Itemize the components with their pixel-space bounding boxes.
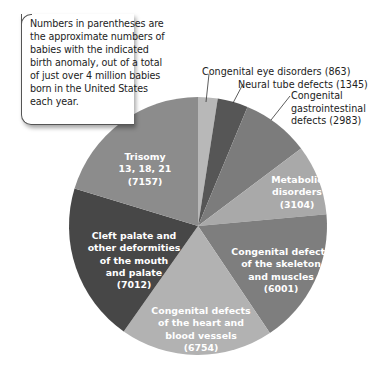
label-skeleton: Congenital defects of the skeleton and m…	[225, 246, 337, 295]
label-metabolic: Metabolic disorders (3104)	[262, 174, 332, 211]
label-eye-disorders: Congenital eye disorders (863)	[202, 66, 350, 79]
label-heart: Congenital defects of the heart and bloo…	[145, 305, 257, 354]
label-cleft-palate: Cleft palate and other deformities of th…	[80, 230, 188, 291]
label-gastrointestinal: Congenital gastrointestinal defects (298…	[291, 90, 366, 128]
label-trisomy: Trisomy 13, 18, 21 (7157)	[100, 151, 190, 188]
note-text: Numbers in parentheses are the approxima…	[30, 17, 165, 108]
